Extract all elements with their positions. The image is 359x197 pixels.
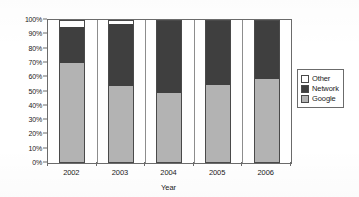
y-tick-label: 70% [29, 58, 42, 65]
bar-segment-network[interactable] [108, 24, 134, 85]
y-tick-mark [43, 47, 47, 48]
bar-column [97, 20, 146, 163]
legend-item-other[interactable]: Other [301, 74, 339, 83]
y-tick-label: 0% [32, 159, 42, 166]
bar-stack[interactable] [254, 20, 280, 163]
y-tick-mark [43, 119, 47, 120]
y-tick-label: 30% [29, 116, 42, 123]
y-tick-label: 100% [25, 16, 42, 23]
y-axis: 0%10%20%30%40%50%60%70%80%90%100% [0, 0, 47, 197]
bar-segment-google[interactable] [205, 85, 231, 163]
y-tick-mark [43, 76, 47, 77]
bar-segment-network[interactable] [59, 27, 85, 63]
legend-item-network[interactable]: Network [301, 84, 339, 93]
x-tick-label: 2005 [209, 168, 225, 177]
legend-label-google: Google [312, 94, 336, 103]
y-tick-label: 90% [29, 30, 42, 37]
y-tick-label: 50% [29, 87, 42, 94]
y-tick-mark [43, 61, 47, 62]
plot-area [47, 19, 292, 164]
x-tick-mark [290, 162, 291, 166]
legend-swatch-other-icon [301, 75, 309, 83]
y-tick-mark [43, 19, 47, 20]
chart-legend: Other Network Google [297, 69, 344, 108]
legend-item-google[interactable]: Google [301, 94, 339, 103]
bar-stack[interactable] [108, 20, 134, 163]
y-tick-label: 40% [29, 101, 42, 108]
y-tick-label: 60% [29, 73, 42, 80]
bar-segment-other[interactable] [59, 20, 85, 27]
legend-label-other: Other [312, 74, 330, 83]
legend-swatch-network-icon [301, 85, 309, 93]
x-axis-title: Year [0, 183, 337, 192]
x-tick-mark [96, 162, 97, 166]
x-tick-label: 2004 [160, 168, 176, 177]
bar-column [242, 20, 291, 163]
x-tick-label: 2003 [112, 168, 128, 177]
legend-swatch-google-icon [301, 95, 309, 103]
x-tick-mark [193, 162, 194, 166]
x-tick-mark [241, 162, 242, 166]
bar-segment-google[interactable] [108, 86, 134, 163]
bar-column [48, 20, 97, 163]
bar-segment-network[interactable] [205, 21, 231, 85]
y-tick-label: 10% [29, 144, 42, 151]
bar-segment-network[interactable] [254, 21, 280, 79]
bar-segment-google[interactable] [59, 63, 85, 163]
y-tick-label: 80% [29, 44, 42, 51]
x-tick-mark [47, 162, 48, 166]
y-tick-label: 20% [29, 130, 42, 137]
stacked-bar-chart: 0%10%20%30%40%50%60%70%80%90%100% 200220… [0, 0, 359, 197]
x-tick-label: 2006 [258, 168, 274, 177]
bar-stack[interactable] [156, 20, 182, 163]
bar-column [194, 20, 243, 163]
bar-stack[interactable] [59, 20, 85, 163]
bar-segment-network[interactable] [156, 21, 182, 93]
x-tick-label: 2002 [63, 168, 79, 177]
bar-segment-google[interactable] [254, 79, 280, 163]
y-tick-mark [43, 147, 47, 148]
y-tick-mark [43, 133, 47, 134]
x-tick-mark [144, 162, 145, 166]
legend-label-network: Network [312, 84, 339, 93]
y-tick-mark [43, 162, 47, 163]
plot-inner [48, 20, 291, 163]
bar-stack[interactable] [205, 20, 231, 163]
bar-column [145, 20, 194, 163]
y-tick-mark [43, 33, 47, 34]
y-tick-mark [43, 104, 47, 105]
bar-segment-google[interactable] [156, 93, 182, 163]
y-tick-mark [43, 90, 47, 91]
